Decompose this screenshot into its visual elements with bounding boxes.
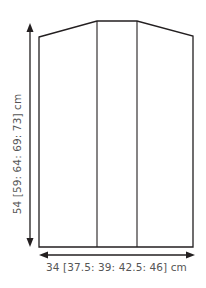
arrow-up-icon xyxy=(27,23,34,32)
arrow-left-icon xyxy=(39,252,48,259)
garment-outline xyxy=(39,21,193,247)
width-dimension-arrow xyxy=(39,252,195,259)
width-measurement-label: 34 [37.5: 39: 42.5: 46] cm xyxy=(46,261,187,273)
garment-schematic xyxy=(0,0,206,288)
arrow-right-icon xyxy=(186,252,195,259)
height-measurement-label: 54 [59: 64: 69: 73] cm xyxy=(11,94,23,215)
height-dimension-arrow xyxy=(27,23,34,247)
arrow-down-icon xyxy=(27,238,34,247)
